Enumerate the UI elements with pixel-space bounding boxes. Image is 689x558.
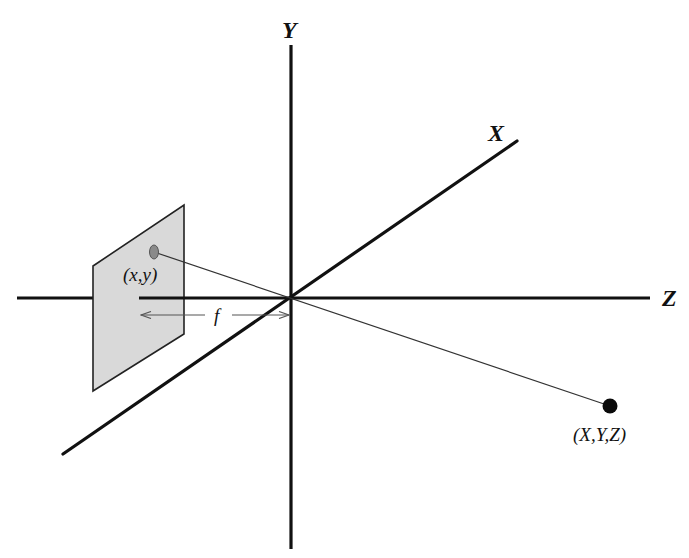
world-point-label: (X,Y,Z)	[573, 424, 626, 446]
image-point-label: (x,y)	[123, 264, 157, 286]
projection-ray	[154, 252, 610, 406]
focal-length-label: f	[214, 305, 222, 326]
x-axis-label: X	[487, 120, 505, 146]
image-point	[150, 245, 159, 259]
pinhole-camera-diagram: Y X Z (x,y) (X,Y,Z) f	[0, 0, 689, 558]
world-point	[603, 399, 618, 414]
y-axis-label: Y	[282, 17, 299, 43]
z-axis-label: Z	[661, 285, 677, 311]
